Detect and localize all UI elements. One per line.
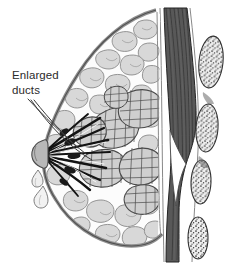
enlarged-ducts-label-line2: ducts (12, 84, 40, 96)
anatomy-diagram: Enlarged ducts (0, 0, 232, 264)
enlarged-ducts-label-line1: Enlarged (12, 69, 59, 81)
lobule (104, 86, 128, 109)
lobule (124, 184, 160, 215)
rib-4 (188, 217, 208, 259)
breast-anatomy-illustration: Enlarged ducts (0, 0, 232, 264)
